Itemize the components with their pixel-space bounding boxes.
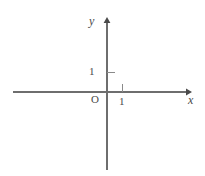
coordinate-plane-figure: y x 1 1 O [0, 0, 205, 176]
x-tick-label-1: 1 [119, 96, 125, 107]
y-axis-arrowhead [104, 17, 111, 23]
y-tick-label-1: 1 [89, 66, 95, 77]
origin-label: O [91, 94, 99, 105]
coordinate-axes-graphic [0, 0, 205, 176]
x-axis-label: x [188, 94, 193, 106]
y-axis-label: y [89, 15, 94, 27]
